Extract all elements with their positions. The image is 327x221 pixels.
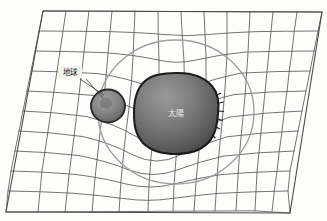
earth-label: 地球 bbox=[63, 67, 78, 77]
sun-label: 太陽 bbox=[168, 108, 185, 118]
spacetime-diagram-svg: 太陽 地球 bbox=[0, 0, 327, 221]
spacetime-curvature-figure: 太陽 地球 bbox=[0, 0, 327, 221]
earth-body bbox=[91, 90, 125, 123]
